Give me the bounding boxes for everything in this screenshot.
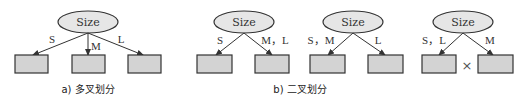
decision-tree-split-diagram: Size S M L a) 多叉划分 Size S M，L Size — [0, 0, 522, 101]
leaf-node-left — [197, 55, 232, 73]
leaf-node-right — [255, 55, 289, 73]
edge-label-s: S — [49, 33, 55, 45]
edge-label-left: S，L — [422, 34, 446, 46]
root-node-label: Size — [232, 16, 255, 29]
edge-s — [33, 33, 88, 55]
leaf-node-left — [422, 55, 456, 73]
panel-a-multiway-split: Size S M L a) 多叉划分 — [15, 11, 161, 95]
invalid-cross-icon: × — [462, 58, 473, 73]
root-node-label: Size — [451, 16, 474, 29]
edge-label-l: L — [118, 33, 125, 45]
edge-label-left: S — [217, 34, 223, 46]
leaf-node-m — [72, 55, 105, 73]
leaf-node-l — [128, 55, 161, 73]
binary-tree-2: Size S，M L — [308, 11, 403, 73]
edge-label-left: S，M — [308, 34, 335, 46]
leaf-node-right — [478, 55, 513, 73]
caption-b: b) 二叉划分 — [273, 83, 326, 95]
edge-label-right: L — [375, 34, 382, 46]
root-node-label: Size — [341, 16, 364, 29]
edge-label-right: M — [485, 34, 495, 46]
leaf-node-left — [310, 55, 345, 73]
caption-a: a) 多叉划分 — [61, 83, 114, 95]
binary-tree-3-invalid: Size S，L M × — [422, 11, 513, 73]
edge-label-right: M，L — [261, 34, 289, 46]
leaf-node-right — [368, 55, 403, 73]
panel-b-binary-split: Size S M，L Size S，M L Size S，L M — [197, 11, 513, 95]
binary-tree-1: Size S M，L — [197, 11, 289, 73]
edge-label-m: M — [91, 40, 101, 52]
root-node-label: Size — [76, 16, 99, 29]
leaf-node-s — [15, 55, 48, 73]
